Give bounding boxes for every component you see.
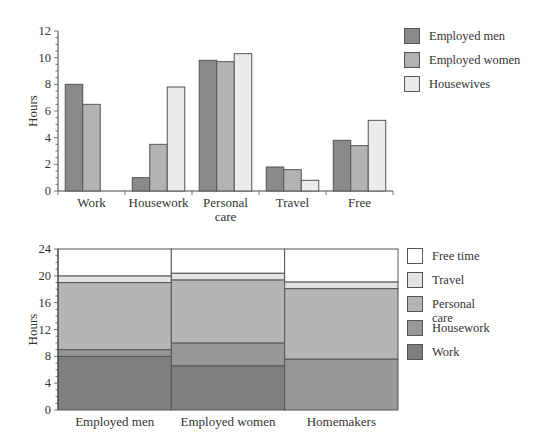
legend-item: Travel: [407, 272, 464, 288]
x-category-label: Employed men: [75, 414, 155, 429]
stacked-chart-plot: Employed menEmployed womenHomemakers0481…: [25, 242, 398, 429]
x-category-label: Travel: [276, 195, 310, 210]
legend-label: Travel: [432, 272, 464, 287]
y-tick-label: 4: [45, 131, 52, 145]
legend-label: Housework: [432, 320, 490, 335]
legend-item: Employed women: [404, 52, 520, 68]
stacked-segment: [285, 359, 398, 410]
y-tick-label: 8: [45, 349, 51, 363]
stacked-segment: [285, 282, 398, 289]
legend-item: Housework: [407, 320, 490, 336]
x-category-label: care: [215, 209, 237, 224]
y-tick-label: 16: [39, 296, 52, 310]
legend-item: Work: [407, 344, 459, 360]
y-tick-label: 10: [39, 51, 52, 65]
y-tick-label: 24: [39, 242, 52, 256]
x-category-label: Work: [77, 195, 106, 210]
stacked-segment: [171, 273, 284, 280]
legend-swatch: [404, 76, 420, 92]
y-tick-label: 4: [45, 376, 52, 390]
legend-swatch: [407, 296, 423, 312]
y-axis-label: Hours: [25, 95, 40, 127]
legend-swatch: [404, 52, 420, 68]
bar: [351, 146, 369, 191]
bar: [150, 144, 168, 191]
stacked-segment: [171, 366, 284, 410]
x-category-label: Homemakers: [307, 414, 376, 429]
x-category-label: Housework: [129, 195, 189, 210]
bar: [301, 180, 319, 191]
y-axis-label: Hours: [25, 314, 40, 346]
legend-item: Free time: [407, 248, 480, 264]
y-tick-label: 12: [39, 323, 52, 337]
y-tick-label: 12: [39, 24, 52, 38]
legend-label: Free time: [432, 248, 480, 263]
bar: [284, 170, 302, 191]
legend-label: Employed men: [429, 28, 505, 43]
stacked-segment: [58, 276, 171, 283]
legend-swatch: [407, 344, 423, 360]
legend-label: Housewives: [429, 76, 490, 91]
legend-label: Work: [432, 344, 459, 359]
legend-swatch: [407, 272, 423, 288]
stacked-segment: [58, 249, 171, 276]
y-tick-label: 6: [45, 104, 51, 118]
stacked-segment: [58, 350, 171, 357]
x-category-label: Employed women: [181, 414, 276, 429]
stacked-segment: [171, 249, 284, 273]
bar: [83, 104, 101, 191]
bar: [199, 60, 217, 191]
y-tick-label: 2: [45, 157, 51, 171]
bar: [368, 120, 386, 191]
y-tick-label: 0: [45, 184, 51, 198]
stacked-segment: [171, 280, 284, 343]
legend-swatch: [404, 28, 420, 44]
bar: [167, 87, 185, 191]
bar: [234, 54, 252, 191]
stacked-segment: [171, 343, 284, 366]
legend-item: Employed men: [404, 28, 505, 44]
bar: [65, 84, 83, 191]
bar: [217, 62, 235, 191]
y-tick-label: 20: [39, 269, 52, 283]
legend-swatch: [407, 248, 423, 264]
grouped-chart-plot: 024681012HoursWorkHouseworkPersonalcareT…: [25, 24, 393, 224]
stacked-segment: [285, 289, 398, 359]
legend-label: Employed women: [429, 52, 520, 67]
bar: [333, 140, 351, 191]
bar: [132, 178, 150, 191]
y-tick-label: 0: [45, 403, 51, 417]
legend-swatch: [407, 320, 423, 336]
bar: [266, 167, 284, 191]
stacked-segment: [58, 356, 171, 410]
x-category-label: Personal: [203, 195, 248, 210]
stacked-segment: [285, 249, 398, 282]
stacked-segment: [58, 283, 171, 350]
y-tick-label: 8: [45, 77, 51, 91]
legend-item: Housewives: [404, 76, 490, 92]
x-category-label: Free: [348, 195, 371, 210]
